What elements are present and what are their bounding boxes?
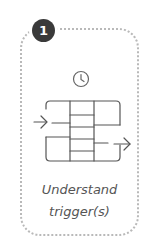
- trigger-grid-icon: [32, 97, 132, 165]
- clock-icon: [72, 70, 90, 88]
- caption-line-1: Understand: [20, 182, 139, 197]
- caption-line-2: trigger(s): [20, 204, 139, 219]
- step-number-badge: 1: [32, 19, 55, 42]
